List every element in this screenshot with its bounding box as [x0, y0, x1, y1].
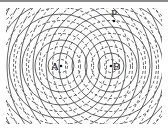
crest-circle-a	[0, 0, 152, 132]
interference-diagram: A B P	[0, 0, 168, 132]
source-a-label: A	[51, 60, 59, 72]
source-b-label: B	[113, 60, 120, 72]
point-p-dot	[113, 20, 116, 23]
source-a-dot	[60, 65, 63, 68]
point-p-label: P	[111, 7, 117, 19]
source-b-dot	[110, 65, 113, 68]
